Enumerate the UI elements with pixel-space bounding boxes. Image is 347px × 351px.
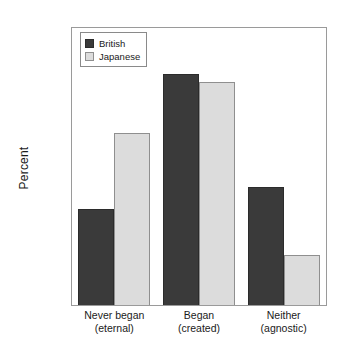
bars-layer xyxy=(72,28,326,305)
bar[interactable] xyxy=(248,187,284,305)
legend: British Japanese xyxy=(80,32,147,67)
bar[interactable] xyxy=(284,255,320,305)
legend-item-label: British xyxy=(99,38,125,49)
bar-group xyxy=(157,28,242,305)
bar-chart-figure: Percent .0%10.0%20.0%30.0%40.0%50.0%60.0… xyxy=(0,0,347,351)
x-axis-tick-label-line: (agnostic) xyxy=(241,322,326,335)
legend-item: Japanese xyxy=(85,50,140,62)
bar[interactable] xyxy=(199,82,235,305)
legend-item: British xyxy=(85,37,140,49)
bar[interactable] xyxy=(114,133,150,305)
legend-swatch-icon xyxy=(85,52,94,61)
x-axis-tick-label: Neither(agnostic) xyxy=(241,309,326,335)
x-axis-tick-label: Never began(eternal) xyxy=(72,309,157,335)
legend-swatch-icon xyxy=(85,39,94,48)
x-axis-tick-label-line: (created) xyxy=(157,322,242,335)
x-axis-tick-label-line: (eternal) xyxy=(72,322,157,335)
bar-group xyxy=(241,28,326,305)
x-axis-labels: Never began(eternal)Began(created)Neithe… xyxy=(72,309,326,349)
x-axis-tick-label: Began(created) xyxy=(157,309,242,335)
bar[interactable] xyxy=(163,74,199,305)
bar[interactable] xyxy=(78,209,114,306)
x-axis-tick-label-line: Began xyxy=(157,309,242,322)
x-axis-tick-label-line: Neither xyxy=(241,309,326,322)
bar-group xyxy=(72,28,157,305)
x-axis-tick-label-line: Never began xyxy=(72,309,157,322)
legend-item-label: Japanese xyxy=(99,51,140,62)
y-axis-ticks: .0%10.0%20.0%30.0%40.0%50.0%60.0% xyxy=(0,0,71,351)
